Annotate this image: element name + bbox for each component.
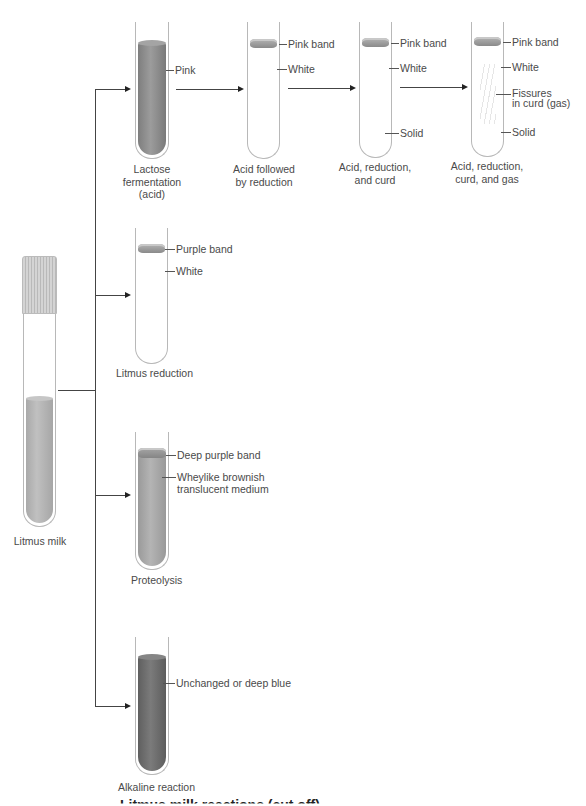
- branch-arrow-reduction: [95, 295, 125, 296]
- wheylike-fill: [138, 452, 166, 566]
- leader-line: [279, 44, 287, 45]
- leader-line: [277, 69, 287, 70]
- trunk-line: [95, 89, 96, 707]
- annotation-white: White: [400, 62, 427, 74]
- fissure-marks: [480, 64, 496, 124]
- caption-litmus-reduction: Litmus reduction: [116, 367, 193, 379]
- leader-line: [389, 68, 399, 69]
- annotation-pink: Pink: [175, 64, 195, 76]
- annotation-pink-band: Pink band: [512, 36, 559, 48]
- leader-line: [503, 42, 511, 43]
- pink-band: [250, 39, 277, 48]
- annotation-solid: Solid: [512, 126, 535, 138]
- branch-arrow-proteolysis: [95, 495, 125, 496]
- caption-alkaline-reaction: Alkaline reaction: [118, 781, 195, 793]
- deep-purple-band: [138, 448, 166, 458]
- fill-surface: [138, 40, 166, 46]
- caption-proteolysis: Proteolysis: [131, 574, 182, 586]
- arrowhead-icon: [462, 84, 468, 90]
- annotation-wheylike: Wheylike brownish translucent medium: [177, 471, 269, 495]
- arrowhead-icon: [125, 492, 131, 498]
- arrowhead-icon: [125, 86, 131, 92]
- annotation-purple-band: Purple band: [176, 243, 233, 255]
- annotation-unchanged-deep-blue: Unchanged or deep blue: [176, 677, 291, 689]
- annotation-pink-band: Pink band: [288, 38, 335, 50]
- pink-fill: [138, 43, 166, 155]
- caption-acid-followed-by-reduction: Acid followed by reduction: [222, 163, 306, 188]
- caption-acid-reduction-curd: Acid, reduction, and curd: [332, 161, 418, 186]
- branch-arrow-fermentation: [95, 89, 125, 90]
- arrowhead-icon: [125, 703, 131, 709]
- branch-arrow-alkaline: [95, 706, 125, 707]
- sequence-arrow-2: [288, 88, 350, 89]
- arrowhead-icon: [125, 292, 131, 298]
- purple-band: [138, 244, 165, 253]
- arrowhead-icon: [350, 85, 356, 91]
- annotation-white: White: [512, 61, 539, 73]
- caption-acid-reduction-curd-gas: Acid, reduction, curd, and gas: [444, 160, 530, 185]
- leader-line: [162, 477, 176, 478]
- pink-band: [362, 38, 389, 47]
- leader-line: [165, 271, 175, 272]
- source-connector: [58, 390, 96, 391]
- fill-surface: [138, 654, 166, 660]
- annotation-white: White: [176, 265, 203, 277]
- litmus-milk-fill: [26, 398, 53, 523]
- figure-caption-cutoff: Litmus milk reactions (cut off): [120, 797, 320, 806]
- litmus-milk-label: Litmus milk: [2, 535, 78, 548]
- leader-line: [496, 94, 511, 95]
- leader-line: [166, 70, 174, 71]
- fill-surface: [26, 396, 53, 401]
- pink-band: [474, 37, 501, 46]
- leader-line: [391, 43, 399, 44]
- annotation-deep-purple-band: Deep purple band: [177, 449, 260, 461]
- leader-line: [165, 249, 175, 250]
- annotation-fissures: Fissures in curd (gas): [512, 88, 570, 108]
- annotation-white: White: [288, 63, 315, 75]
- leader-line: [163, 683, 175, 684]
- caption-lactose-fermentation: Lactose fermentation (acid): [112, 163, 192, 201]
- sequence-arrow-3: [400, 87, 462, 88]
- annotation-pink-band: Pink band: [400, 37, 447, 49]
- arrowhead-icon: [238, 86, 244, 92]
- sequence-arrow-1: [176, 89, 238, 90]
- leader-line: [166, 455, 176, 456]
- screw-cap: [22, 256, 57, 314]
- leader-line: [501, 132, 511, 133]
- leader-line: [501, 67, 511, 68]
- leader-line: [385, 133, 399, 134]
- deep-blue-fill: [138, 657, 166, 771]
- annotation-solid: Solid: [400, 127, 423, 139]
